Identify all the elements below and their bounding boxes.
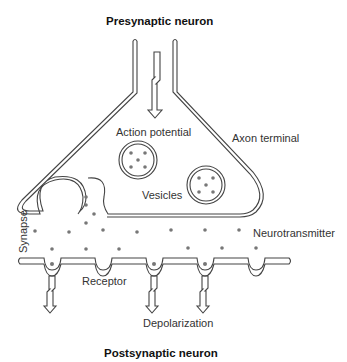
neurotransmitter-dots: [33, 151, 258, 266]
postsynaptic-membrane: [19, 258, 291, 276]
vesicles-label: Vesicles: [142, 190, 182, 201]
depolarization-arrow: [197, 276, 209, 313]
postsynaptic-neuron-title: Postsynaptic neuron: [104, 348, 218, 360]
synapse-label: Synapse: [18, 210, 29, 253]
action-potential-label: Action potential: [116, 127, 191, 138]
action-potential-arrow: [148, 52, 162, 118]
depolarization-label: Depolarization: [143, 318, 213, 329]
neurotransmitter-label: Neurotransmitter: [253, 228, 335, 239]
receptor-label: Receptor: [82, 276, 127, 287]
synapse-diagram: [0, 0, 347, 362]
depolarization-arrow: [44, 276, 56, 313]
axon-terminal-label: Axon terminal: [232, 133, 299, 144]
presynaptic-neuron-title: Presynaptic neuron: [106, 16, 213, 28]
depolarization-arrow: [146, 276, 158, 313]
